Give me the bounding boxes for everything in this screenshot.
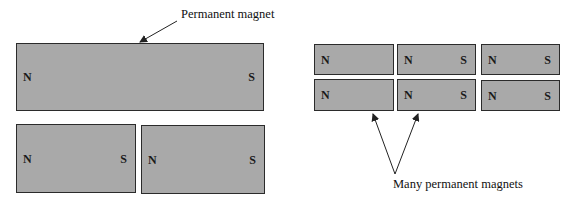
- south-pole-label: S: [460, 89, 467, 101]
- north-pole-label: N: [23, 153, 32, 165]
- south-pole-label: S: [249, 154, 256, 166]
- small-magnet-r1c2: N S: [397, 44, 476, 75]
- arrow-many-left: [373, 114, 395, 174]
- south-pole-label: S: [544, 90, 551, 102]
- north-pole-label: N: [321, 89, 330, 101]
- north-pole-label: N: [321, 54, 330, 66]
- south-pole-label: S: [248, 71, 255, 83]
- small-magnet-r2c3: N S: [481, 80, 560, 111]
- north-pole-label: N: [488, 54, 497, 66]
- north-pole-label: N: [488, 90, 497, 102]
- small-magnet-r2c2: N S: [397, 79, 476, 111]
- south-pole-label: S: [544, 54, 551, 66]
- label-permanent-magnet: Permanent magnet: [181, 8, 274, 21]
- big-magnet: N S: [16, 43, 264, 111]
- south-pole-label: S: [460, 54, 467, 66]
- split-magnet-left: N S: [16, 124, 136, 193]
- north-pole-label: N: [404, 54, 413, 66]
- north-pole-label: N: [148, 154, 157, 166]
- arrow-permanent-magnet: [140, 21, 177, 42]
- small-magnet-r1c1: N: [314, 44, 394, 75]
- small-magnet-r1c3: N S: [481, 44, 560, 75]
- label-many-permanent-magnets: Many permanent magnets: [393, 178, 523, 191]
- north-pole-label: N: [23, 71, 32, 83]
- north-pole-label: N: [404, 89, 413, 101]
- arrow-many-right: [395, 114, 418, 174]
- south-pole-label: S: [120, 153, 127, 165]
- split-magnet-right: N S: [141, 125, 265, 194]
- small-magnet-r2c1: N: [314, 79, 394, 111]
